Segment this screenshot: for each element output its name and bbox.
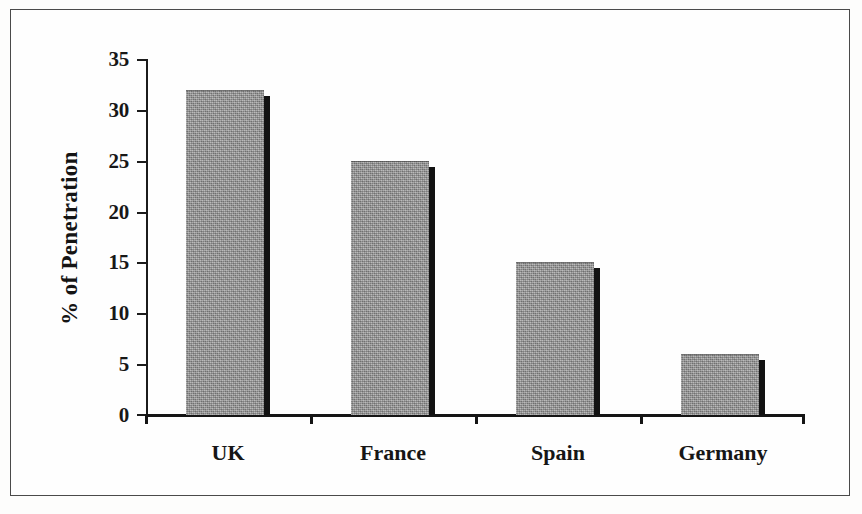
bar-germany[interactable] [681, 354, 759, 415]
y-axis-line [146, 59, 148, 416]
y-tick-label-25: 25 [85, 149, 129, 174]
bar-chart: % of Penetration 35 30 25 20 15 10 5 0 [0, 0, 862, 514]
x-tick-2 [475, 414, 478, 424]
x-category-uk: UK [138, 440, 318, 466]
y-tick-label-15: 15 [85, 250, 129, 275]
bar-france[interactable] [351, 161, 429, 415]
y-tick-15 [137, 262, 147, 264]
y-tick-25 [137, 161, 147, 163]
y-tick-20 [137, 212, 147, 214]
bar-uk[interactable] [186, 90, 264, 415]
y-axis-title: % of Penetration [57, 108, 83, 368]
y-tick-label-30: 30 [85, 98, 129, 123]
chart-page: % of Penetration 35 30 25 20 15 10 5 0 [0, 0, 862, 514]
x-tick-3 [640, 414, 643, 424]
x-category-spain: Spain [468, 440, 648, 466]
bar-spain[interactable] [516, 262, 594, 415]
y-tick-label-10: 10 [85, 301, 129, 326]
x-category-germany: Germany [633, 440, 813, 466]
x-tick-4 [802, 414, 805, 424]
x-tick-1 [310, 414, 313, 424]
y-tick-5 [137, 364, 147, 366]
y-tick-35 [137, 59, 147, 61]
y-tick-10 [137, 313, 147, 315]
y-tick-label-20: 20 [85, 200, 129, 225]
y-tick-label-35: 35 [85, 47, 129, 72]
x-tick-0 [145, 414, 148, 424]
y-tick-label-0: 0 [85, 403, 129, 428]
x-category-france: France [303, 440, 483, 466]
y-tick-label-5: 5 [85, 352, 129, 377]
y-tick-30 [137, 110, 147, 112]
